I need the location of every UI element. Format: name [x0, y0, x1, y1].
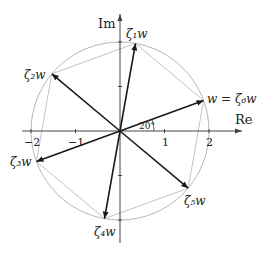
label-zeta5w: ζ₅w — [184, 194, 206, 208]
vector-zeta2w — [52, 74, 120, 131]
complex-plane-diagram: −2 −1 1 2 Re Im 20° ζ₁w ζ₂w ζ₃w ζ₄w ζ₅w … — [0, 0, 266, 254]
real-axis-label: Re — [235, 112, 253, 127]
vector-zeta4w — [105, 131, 121, 219]
label-zeta1w: ζ₁w — [126, 27, 148, 41]
label-zeta6w: w = ζ₆w — [207, 92, 257, 106]
vector-zeta1w — [120, 43, 136, 131]
imaginary-axis-label: Im — [98, 16, 115, 31]
label-zeta2w: ζ₂w — [24, 68, 46, 82]
vector-zeta5w — [120, 131, 188, 188]
tick-label-2: 2 — [206, 136, 213, 149]
label-zeta4w: ζ₄w — [94, 225, 116, 239]
vector-zeta6w — [120, 101, 204, 131]
tick-label-neg2: −2 — [24, 136, 40, 149]
tick-label-1: 1 — [162, 136, 169, 149]
label-zeta3w: ζ₃w — [10, 155, 32, 169]
